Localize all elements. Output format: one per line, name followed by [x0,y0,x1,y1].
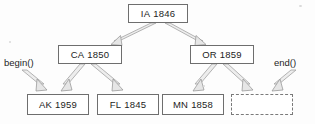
tree-node-mn-label: MN1858 [173,100,213,110]
tree-node-root-label: IA1846 [141,9,175,19]
edge-root-to-or [165,23,206,46]
begin-iterator-label: begin() [4,58,34,68]
end-iterator-label: end() [274,58,296,68]
tree-node-or-label: OR1859 [202,50,242,60]
edge-end-to-null [272,70,296,91]
scan-speck [299,5,302,7]
tree-node-null-sentinel[interactable] [231,94,293,115]
scan-speck [203,85,205,87]
tree-node-or[interactable]: OR1859 [190,45,254,64]
scan-speck [9,41,11,43]
tree-node-ca[interactable]: CA1850 [58,45,122,64]
tree-diagram: IA1846 CA1850 OR1859 AK1959 FL1845 MN185… [0,0,315,124]
edge-ca-to-fl [91,64,123,91]
edge-or-to-null [223,64,253,91]
tree-node-root[interactable]: IA1846 [128,4,188,23]
tree-node-fl-label: FL1845 [110,100,146,110]
tree-node-fl[interactable]: FL1845 [97,94,159,115]
tree-node-mn[interactable]: MN1858 [162,94,224,115]
tree-node-ak-label: AK1959 [39,100,77,110]
tree-node-ca-label: CA1850 [71,50,110,60]
edge-begin-to-ak [22,70,47,91]
tree-node-ak[interactable]: AK1959 [27,94,89,115]
edge-or-to-mn [193,64,217,91]
edge-ca-to-ak [61,64,85,91]
edge-root-to-ca [111,23,156,46]
